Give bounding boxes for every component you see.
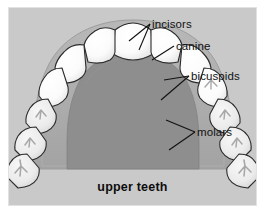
label-incisors: incisors <box>152 18 192 30</box>
label-canine: canine <box>176 40 211 52</box>
diagram-plate: incisors canine bicuspids molars upper t… <box>8 7 257 206</box>
label-molars: molars <box>197 126 232 138</box>
label-bicuspids: bicuspids <box>191 70 240 82</box>
upper-teeth-figure: incisors canine bicuspids molars upper t… <box>0 0 265 213</box>
tooth-incisor <box>113 23 153 60</box>
dental-arch-illustration <box>9 8 257 206</box>
figure-caption: upper teeth <box>9 180 256 194</box>
